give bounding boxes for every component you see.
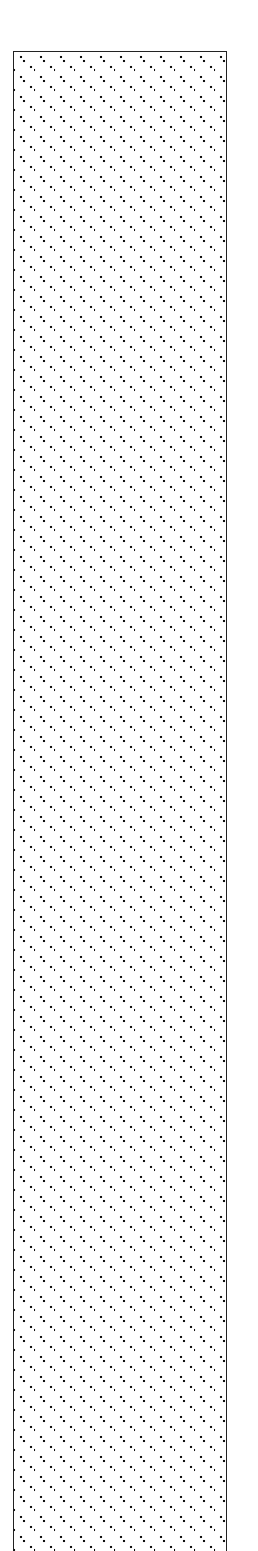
dotted-pattern-bar	[13, 51, 227, 1551]
